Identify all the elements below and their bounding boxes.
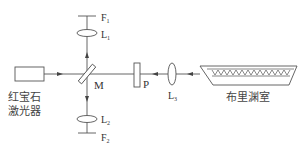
filter1-label: F1 [101,12,110,24]
mirror-label: M [94,79,104,91]
laser-label-1: 红宝石 [8,90,41,104]
filter2-label: F2 [101,132,110,144]
polarizer-plate [134,63,140,87]
lens1-label: L1 [101,29,110,41]
polarizer-label: P [143,78,149,90]
lens3-icon [168,63,176,85]
arrow-left-icon [152,72,158,76]
lens3-label: L3 [168,90,177,102]
arrow-up-icon [85,52,89,58]
laser-box [15,67,44,81]
lens2-icon [77,116,97,123]
lens2-label: L2 [101,114,110,126]
arrow-left-icon [187,72,193,76]
laser-label-2: 激光器 [8,104,41,118]
lens1-icon [77,30,97,37]
optical-diagram: 红宝石 激光器 M P L3 布里渊室 F1 L1 L2 F2 [0,0,307,149]
cell-label: 布里渊室 [226,90,270,104]
arrow-down-icon [85,96,89,102]
arrow-right-icon [57,72,63,76]
